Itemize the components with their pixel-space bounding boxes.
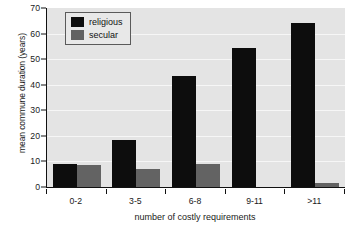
bar-religious: [232, 48, 256, 187]
bar-religious: [291, 23, 315, 187]
x-tick-mark: [284, 189, 285, 194]
x-axis-title: number of costly requirements: [46, 212, 344, 222]
bar-group: [285, 8, 345, 187]
bar-religious: [112, 140, 136, 187]
legend-label: secular: [89, 30, 118, 40]
bar-chart-figure: mean commune duration (years) 0102030405…: [0, 0, 356, 229]
bar-group: [226, 8, 286, 187]
x-tick-mark: [225, 189, 226, 194]
x-tick-mark: [106, 189, 107, 194]
x-tick-mark: [46, 189, 47, 194]
x-tick-mark: [344, 189, 345, 194]
legend-swatch-secular: [71, 30, 84, 40]
bar-group: [166, 8, 226, 187]
y-tick-label: 0: [18, 182, 40, 192]
x-tick-mark: [165, 189, 166, 194]
y-tick-label: 70: [18, 3, 40, 13]
x-tick-label: 9-11: [225, 196, 285, 206]
y-tick-label: 60: [18, 29, 40, 39]
bar-secular: [77, 165, 101, 187]
y-tick-label: 10: [18, 156, 40, 166]
y-axis-tick-labels: 010203040506070: [18, 8, 40, 187]
legend: religioussecular: [65, 12, 131, 45]
x-axis-tick-marks: [46, 189, 346, 194]
x-axis-tick-labels: 0-23-56-89-11>11: [46, 196, 344, 206]
bar-religious: [172, 76, 196, 187]
y-tick-label: 30: [18, 105, 40, 115]
legend-label: religious: [89, 17, 123, 27]
legend-item: religious: [71, 17, 123, 27]
bar-secular: [196, 164, 220, 187]
x-tick-label: 3-5: [106, 196, 166, 206]
x-tick-label: 6-8: [165, 196, 225, 206]
y-tick-label: 40: [18, 80, 40, 90]
x-tick-label: 0-2: [46, 196, 106, 206]
legend-swatch-religious: [71, 17, 84, 27]
bar-religious: [53, 164, 77, 187]
bar-secular: [136, 169, 160, 187]
x-tick-label: >11: [284, 196, 344, 206]
bar-secular: [315, 183, 339, 187]
legend-item: secular: [71, 30, 123, 40]
y-tick-label: 50: [18, 54, 40, 64]
y-tick-label: 20: [18, 131, 40, 141]
